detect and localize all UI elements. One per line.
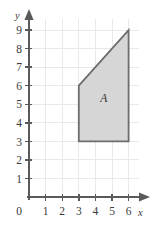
- x-axis-tick-labels: 123456: [43, 205, 132, 217]
- y-tick-label: 5: [16, 98, 22, 110]
- region-label-a: A: [99, 92, 108, 104]
- y-tick-label: 7: [16, 61, 22, 73]
- y-axis-tick-labels: 123456789: [16, 24, 22, 184]
- x-tick-label: 6: [126, 205, 132, 217]
- x-axis-label: x: [137, 207, 143, 218]
- y-axis-label: y: [14, 10, 20, 21]
- x-tick-label: 5: [109, 205, 115, 217]
- y-tick-label: 3: [16, 136, 22, 148]
- x-axis-arrow-icon: [139, 192, 150, 201]
- y-tick-label: 4: [16, 117, 22, 129]
- x-tick-label: 4: [93, 205, 99, 217]
- shaded-region-a: [79, 30, 129, 141]
- x-tick-label: 3: [76, 205, 82, 217]
- x-tick-label: 1: [43, 205, 49, 217]
- origin-label: 0: [16, 205, 22, 217]
- coordinate-grid-figure: 123456 123456789 0 x y A: [0, 0, 158, 228]
- x-tick-label: 2: [59, 205, 65, 217]
- y-tick-label: 8: [16, 43, 22, 55]
- y-tick-label: 6: [16, 80, 22, 92]
- plot-canvas: 123456 123456789 0 x y A: [0, 0, 158, 228]
- region-annotations: A: [99, 92, 108, 104]
- shaded-regions: [79, 30, 129, 141]
- y-tick-label: 1: [16, 173, 22, 185]
- y-tick-label: 2: [16, 154, 22, 166]
- y-axis-arrow-icon: [24, 9, 33, 20]
- y-tick-label: 9: [16, 24, 22, 36]
